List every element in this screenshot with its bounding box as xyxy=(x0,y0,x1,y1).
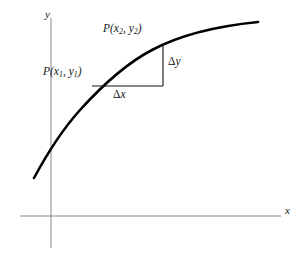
p1-base: P(x xyxy=(43,65,59,77)
delta-x-label: Δx xyxy=(113,89,126,101)
delta-y-variable: y xyxy=(175,55,180,67)
figure-canvas: y x P(x2, y2) P(x1, y1) Δy Δx xyxy=(0,0,306,258)
p2-base: P(x xyxy=(103,22,119,34)
p2-mid: , y xyxy=(123,22,134,34)
p1-end: ) xyxy=(78,65,82,77)
p1-mid: , y xyxy=(63,65,74,77)
y-axis-label: y xyxy=(45,9,50,20)
diagram-svg xyxy=(0,0,306,258)
point-label-p2: P(x2, y2) xyxy=(103,23,141,36)
delta-x-variable: x xyxy=(120,88,125,100)
point-label-p1: P(x1, y1) xyxy=(43,66,81,79)
delta-y-label: Δy xyxy=(168,56,181,68)
function-curve xyxy=(34,22,258,178)
p2-end: ) xyxy=(138,22,142,34)
x-axis-label: x xyxy=(285,205,290,216)
